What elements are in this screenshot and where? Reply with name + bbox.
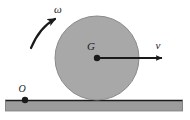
center-of-mass-dot [94,55,100,61]
origin-point-dot [22,97,28,103]
rolling-disk-figure: ω G v O [0,0,190,120]
angular-velocity-arc [31,19,55,48]
origin-point-label: O [18,83,25,94]
diagram-canvas: ω G v O [0,0,190,120]
center-of-mass-label: G [87,40,95,52]
omega-label: ω [54,3,62,15]
ground-surface [5,100,183,111]
velocity-label: v [156,39,161,51]
